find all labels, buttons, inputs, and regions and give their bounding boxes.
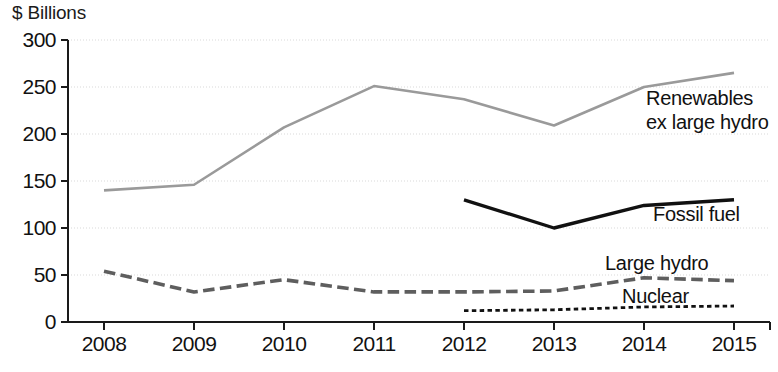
x-axis-tick-label: 2008 — [82, 332, 127, 356]
y-axis-tick-label: 250 — [22, 75, 56, 99]
annotation-fossil-fuel: Fossil fuel — [653, 203, 740, 226]
y-axis-tick-label: 100 — [22, 216, 56, 240]
annotation-renewables: Renewables ex large hydro — [646, 86, 769, 134]
x-axis-tick-label: 2010 — [262, 332, 307, 356]
annotation-nuclear: Nuclear — [622, 285, 689, 308]
chart-container: $ Billions 050100150200250300 2008200920… — [0, 0, 778, 372]
x-axis-tick-label: 2011 — [352, 332, 395, 356]
annotation-large-hydro: Large hydro — [605, 252, 708, 275]
annotation-renewables-line1: Renewables — [646, 86, 769, 110]
y-axis-tick-label: 300 — [22, 28, 56, 52]
plot-area — [0, 0, 778, 372]
bottom-edge-artifact — [0, 364, 778, 372]
series-line-nuclear — [464, 306, 734, 311]
annotation-renewables-line2: ex large hydro — [646, 110, 769, 134]
gridlines — [68, 40, 770, 275]
y-axis-tick-label: 0 — [45, 310, 56, 334]
y-axis-tick-label: 150 — [22, 169, 56, 193]
x-axis-tick-label: 2013 — [532, 332, 577, 356]
y-axis-unit-label: $ Billions — [12, 2, 86, 24]
x-axis-tick-label: 2014 — [622, 332, 667, 356]
x-axis-tick-label: 2015 — [712, 332, 757, 356]
y-axis-tick-label: 50 — [34, 263, 56, 287]
x-axis-tick-label: 2012 — [442, 332, 487, 356]
series-line-renewables-ex-large-hydro — [104, 73, 734, 190]
y-axis-tick-label: 200 — [22, 122, 56, 146]
x-axis-tick-label: 2009 — [172, 332, 217, 356]
